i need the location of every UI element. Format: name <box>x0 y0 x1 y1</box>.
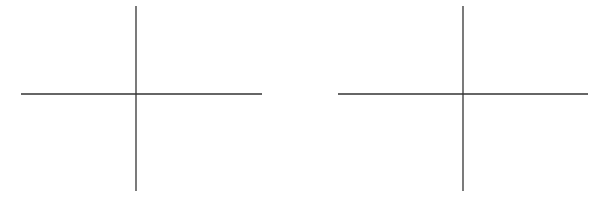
right-axes <box>338 6 588 191</box>
left-axes <box>21 6 262 191</box>
axes-diagram <box>0 0 599 198</box>
